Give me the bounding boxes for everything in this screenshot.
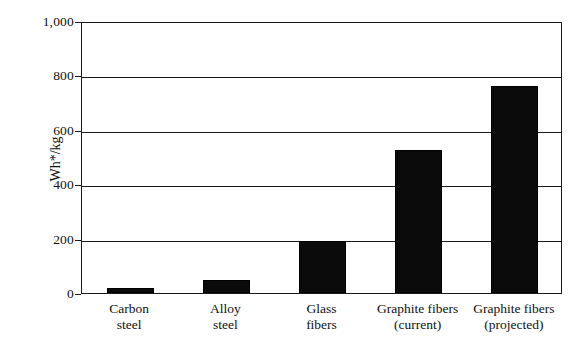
- plot-area: [81, 22, 562, 294]
- gridline-400: [82, 186, 561, 187]
- x-tick-label-4: Graphite fibers(projected): [449, 301, 579, 332]
- y-tick-label-0: 0: [8, 287, 74, 301]
- bar-graphite-fibers-projected[interactable]: [491, 86, 538, 293]
- x-tick-label-line: Graphite fibers: [449, 301, 579, 317]
- y-tick-label-600: 600: [8, 124, 74, 138]
- bar-glass-fibers[interactable]: [299, 241, 346, 293]
- bar-chart-figure: Wh*/kg 02004006008001,000 CarbonsteelAll…: [0, 0, 579, 354]
- bar-graphite-fibers-current[interactable]: [395, 150, 442, 293]
- y-tick-label-1000: 1,000: [8, 15, 74, 29]
- clipped-title-remnant: [0, 0, 579, 4]
- gridline-600: [82, 132, 561, 133]
- gridline-800: [82, 77, 561, 78]
- x-tick-label-line: (projected): [449, 317, 579, 333]
- y-tick-label-800: 800: [8, 69, 74, 83]
- y-tick-mark-0: [75, 294, 81, 295]
- bar-alloy-steel[interactable]: [203, 280, 250, 293]
- y-axis-title: Wh*/kg: [49, 99, 63, 219]
- bar-carbon-steel[interactable]: [107, 288, 154, 293]
- y-tick-label-400: 400: [8, 178, 74, 192]
- y-tick-label-200: 200: [8, 233, 74, 247]
